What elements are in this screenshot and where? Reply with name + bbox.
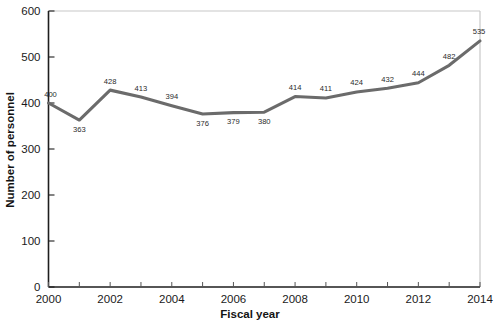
x-tick-label: 2010 <box>344 293 370 305</box>
data-point-label: 411 <box>320 84 332 93</box>
x-tick-label: 2012 <box>406 293 432 305</box>
data-point-label: 424 <box>350 78 363 87</box>
plot-frame <box>49 11 481 287</box>
y-tick-label: 600 <box>21 5 40 17</box>
x-axis-title: Fiscal year <box>220 308 280 320</box>
y-tick-label: 100 <box>21 235 40 247</box>
y-axis-title: Number of personnel <box>4 92 16 208</box>
data-point-label: 394 <box>165 92 178 101</box>
x-tick-label: 2006 <box>221 293 247 305</box>
data-point-label: 444 <box>412 69 425 78</box>
data-point-label: 376 <box>196 119 209 128</box>
data-point-label: 400 <box>44 90 57 99</box>
y-tick-label: 400 <box>21 97 40 109</box>
y-tick-label: 300 <box>21 143 40 155</box>
data-point-label: 428 <box>104 77 117 86</box>
y-tick-label: 500 <box>21 51 40 63</box>
chart-canvas: 0100200300400500600 20002002200420062008… <box>0 0 500 327</box>
x-tick-label: 2008 <box>282 293 308 305</box>
data-point-label: 413 <box>135 84 148 93</box>
data-point-label: 363 <box>73 125 86 134</box>
data-point-label: 482 <box>443 52 456 61</box>
x-tick-labels: 20002002200420062008201020122014 <box>36 293 494 305</box>
data-point-label: 432 <box>381 75 394 84</box>
data-point-label: 414 <box>289 83 302 92</box>
x-tick-label: 2004 <box>159 293 185 305</box>
x-tick-label: 2014 <box>467 293 493 305</box>
data-point-label: 379 <box>227 117 240 126</box>
y-tick-label: 200 <box>21 189 40 201</box>
x-tick-label: 2002 <box>97 293 123 305</box>
axis-ticks <box>49 11 481 287</box>
y-tick-labels: 0100200300400500600 <box>21 5 40 293</box>
data-point-label: 380 <box>258 117 271 126</box>
data-point-label: 535 <box>473 27 486 36</box>
x-tick-label: 2000 <box>36 293 62 305</box>
line-chart: 0100200300400500600 20002002200420062008… <box>0 0 500 327</box>
data-point-labels: 4003634284133943763793804144114244324444… <box>44 27 485 133</box>
y-tick-label: 0 <box>34 281 40 293</box>
